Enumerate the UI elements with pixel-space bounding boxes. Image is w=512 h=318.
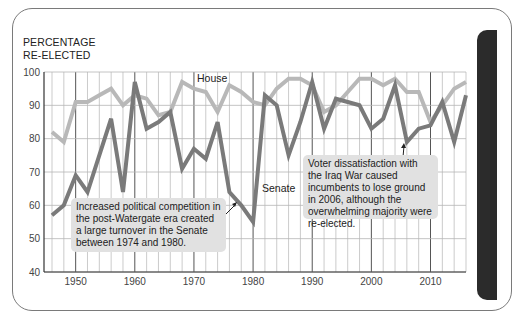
y-tick-label: 70 xyxy=(29,167,41,178)
x-tick-label: 1990 xyxy=(301,276,324,287)
house-label: House xyxy=(197,72,227,84)
x-tick-label: 1970 xyxy=(183,276,206,287)
annotation-watergate: Increased political competition in the p… xyxy=(71,198,226,252)
y-tick-label: 100 xyxy=(23,67,40,78)
y-tick-label: 50 xyxy=(29,233,41,244)
x-tick-label: 2000 xyxy=(360,276,383,287)
senate-label: Senate xyxy=(262,182,295,194)
x-tick-label: 1960 xyxy=(124,276,147,287)
y-tick-label: 60 xyxy=(29,200,41,211)
x-tick-label: 1980 xyxy=(242,276,265,287)
x-tick-label: 2010 xyxy=(419,276,442,287)
y-tick-label: 40 xyxy=(29,267,41,278)
y-tick-label: 80 xyxy=(29,133,41,144)
y-tick-label: 90 xyxy=(29,100,41,111)
x-tick-label: 1950 xyxy=(65,276,88,287)
annotation-iraq-war: Voter dissatisfaction with the Iraq War … xyxy=(303,155,438,219)
